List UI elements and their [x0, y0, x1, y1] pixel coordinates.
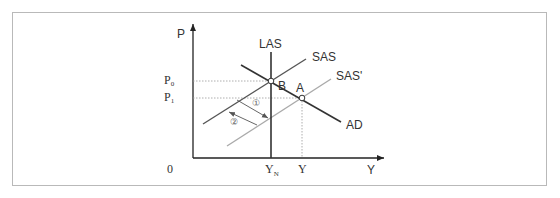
as-ad-diagram: P Y 0 LAS SAS SAS' AD B A P0 P1 YN Y ① ② [0, 0, 560, 198]
sas-label: SAS [312, 50, 336, 64]
y-axis-label: P [177, 27, 185, 41]
arrow-1-label: ① [252, 98, 260, 108]
p1-label: P1 [164, 90, 175, 105]
point-a-marker [299, 95, 305, 101]
y-output-label: Y [298, 162, 307, 176]
ad-curve [241, 65, 341, 122]
yn-main: Y [265, 162, 274, 176]
arrow-2-label: ② [230, 117, 238, 127]
yn-label: YN [265, 162, 279, 178]
point-b-label: B [278, 79, 286, 93]
sas-curve [203, 59, 306, 124]
point-b-marker [268, 78, 274, 84]
yn-sub: N [274, 170, 279, 178]
las-label: LAS [259, 37, 282, 51]
point-a-label: A [296, 81, 304, 95]
ad-label: AD [346, 118, 363, 132]
p0-label: P0 [164, 73, 175, 88]
origin-label: 0 [167, 162, 173, 176]
p0-sub: 0 [171, 80, 175, 88]
x-axis-label: Y [367, 163, 375, 177]
sas-prime-label: SAS' [336, 69, 362, 83]
p1-sub: 1 [171, 97, 175, 105]
